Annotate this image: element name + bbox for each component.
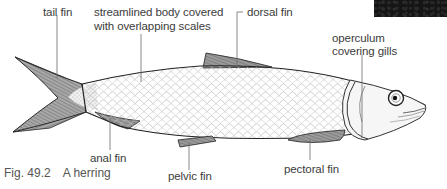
label-tail-fin: tail fin [43, 6, 72, 19]
label-body-line1: streamlined body covered [94, 6, 223, 19]
herring-illustration [0, 0, 447, 189]
label-body-line2: with overlapping scales [94, 20, 211, 33]
label-pelvic-fin: pelvic fin [168, 170, 212, 183]
label-dorsal-fin: dorsal fin [247, 6, 293, 19]
figure-title: A herring [63, 166, 111, 180]
figure-number: Fig. 49.2 [4, 166, 51, 180]
label-operculum-line2: covering gills [332, 45, 397, 58]
label-operculum-line1: operculum [332, 32, 385, 45]
herring-diagram: tail fin streamlined body covered with o… [0, 0, 447, 189]
label-pectoral-fin: pectoral fin [284, 163, 339, 176]
label-anal-fin: anal fin [90, 152, 126, 165]
figure-caption: Fig. 49.2A herring [4, 166, 111, 180]
pelvic-fin [178, 136, 216, 147]
